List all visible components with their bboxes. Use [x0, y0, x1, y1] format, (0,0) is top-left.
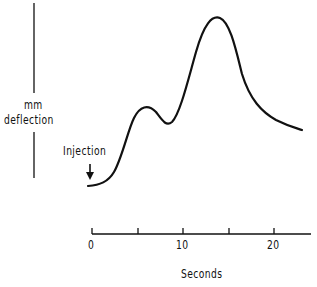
- y-axis-label-line1: mm: [24, 98, 43, 112]
- x-axis-label: Seconds: [181, 267, 223, 281]
- y-axis-label-line2: deflection: [4, 113, 54, 127]
- x-tick-label-20: 20: [267, 238, 280, 252]
- x-tick-label-10: 10: [176, 238, 189, 252]
- x-tick-label-0: 0: [88, 238, 94, 252]
- deflection-curve: [88, 17, 302, 186]
- injection-annotation: Injection: [63, 144, 106, 158]
- injection-arrow-icon: [86, 172, 94, 180]
